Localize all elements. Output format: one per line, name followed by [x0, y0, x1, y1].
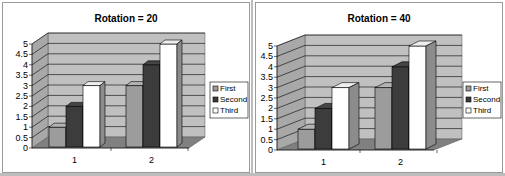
x-tick-label: 2 — [149, 155, 154, 165]
bar-side — [349, 83, 359, 149]
legend-label: First — [473, 84, 489, 93]
legend-label: First — [220, 84, 236, 93]
y-tick-label: 1.5 — [15, 112, 28, 122]
y-tick-label: 2 — [23, 101, 28, 111]
y-tick-label: 2.5 — [15, 91, 28, 101]
bar-third-1 — [83, 86, 100, 147]
y-tick-label: 4 — [23, 60, 28, 70]
y-tick-label: 5 — [268, 41, 273, 51]
y-tick-label: 0 — [23, 143, 28, 153]
legend-label: Third — [220, 106, 238, 115]
legend-swatch — [213, 97, 218, 102]
bar-third-2 — [409, 46, 426, 149]
y-tick-label: 3 — [268, 83, 273, 93]
y-tick-label: 0.5 — [15, 133, 28, 143]
chart-title: Rotation = 20 — [94, 13, 158, 24]
bar-second-1 — [315, 108, 332, 149]
y-tick-label: 4 — [268, 62, 273, 72]
bottom-border — [0, 173, 505, 176]
bar-third-1 — [332, 88, 349, 149]
legend-label: Second — [220, 95, 247, 104]
y-tick-label: 0 — [268, 145, 273, 155]
y-tick-label: 3.5 — [260, 72, 273, 82]
y-tick-label: 2.5 — [260, 93, 273, 103]
chart-rotation-20: Rotation = 2000.511.522.533.544.5512Firs… — [0, 0, 252, 176]
legend-label: Second — [473, 95, 500, 104]
y-tick-label: 2 — [268, 103, 273, 113]
bar-third-2 — [160, 44, 177, 147]
x-tick-label: 1 — [321, 157, 326, 167]
bar-second-2 — [143, 65, 160, 147]
chart-title: Rotation = 40 — [347, 13, 411, 24]
x-tick-label: 2 — [398, 157, 403, 167]
chart-panel-rotation-40: Rotation = 4000.511.522.533.544.5512Firs… — [253, 0, 505, 176]
bar-side — [177, 40, 182, 147]
bar-second-2 — [392, 67, 409, 149]
y-tick-label: 4.5 — [260, 51, 273, 61]
legend-swatch — [213, 108, 218, 113]
legend-swatch — [466, 108, 471, 113]
bar-side — [426, 41, 436, 149]
chart-panel-rotation-20: Rotation = 2000.511.522.533.544.5512Firs… — [0, 0, 252, 176]
legend-label: Third — [473, 106, 491, 115]
y-tick-label: 5 — [23, 39, 28, 49]
x-tick-label: 1 — [72, 155, 77, 165]
y-tick-label: 3.5 — [15, 70, 28, 80]
bar-first-1 — [49, 127, 66, 147]
bar-first-2 — [375, 88, 392, 149]
legend-swatch — [213, 86, 218, 91]
y-tick-label: 0.5 — [260, 135, 273, 145]
bar-second-1 — [66, 106, 83, 147]
y-tick-label: 1 — [268, 124, 273, 134]
y-tick-label: 4.5 — [15, 49, 28, 59]
y-tick-label: 3 — [23, 81, 28, 91]
bar-side — [100, 82, 105, 147]
legend-swatch — [466, 97, 471, 102]
bar-first-1 — [298, 129, 315, 149]
bar-first-2 — [126, 86, 143, 147]
y-tick-label: 1 — [23, 122, 28, 132]
legend-swatch — [466, 86, 471, 91]
chart-rotation-40: Rotation = 4000.511.522.533.544.5512Firs… — [253, 0, 505, 176]
y-tick-label: 1.5 — [260, 114, 273, 124]
